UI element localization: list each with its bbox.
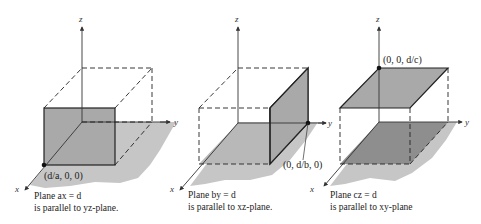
point-marker: [377, 66, 382, 71]
caption-line2: is parallel to yz-plane.: [34, 203, 118, 213]
y-axis-label: y: [464, 117, 469, 127]
point-marker: [42, 163, 47, 168]
caption-line1: Plane ax = d: [34, 191, 82, 201]
point-label: (0, 0, d/c): [383, 54, 422, 66]
plane-ax-face: [44, 108, 115, 165]
caption-line1: Plane by = d: [188, 190, 236, 200]
planes-diagram: z y x (d/a, 0, 0) Plane ax = d is parall…: [0, 0, 481, 224]
caption-line1: Plane cz = d: [330, 190, 377, 200]
caption-line2: is parallel to xy-plane: [330, 202, 413, 212]
x-axis-label: x: [169, 184, 174, 194]
y-axis-label: y: [173, 117, 178, 127]
y-axis-label-prev: y: [327, 118, 332, 128]
z-axis-label: z: [234, 14, 239, 24]
x-axis-label: x: [14, 184, 19, 194]
panel-plane-by: z x (0, d/b, 0) Plane by = d is parallel…: [160, 14, 326, 212]
x-axis-label: x: [309, 184, 314, 194]
panel-plane-cz: z y y x (0, 0, d/c) Plane cz = d is para…: [309, 14, 469, 212]
plane-cz-face: [340, 68, 448, 108]
z-axis-label: z: [375, 14, 380, 24]
point-label: (d/a, 0, 0): [44, 170, 83, 182]
caption-line2: is parallel to xz-plane.: [188, 202, 272, 212]
point-label: (0, d/b, 0): [283, 159, 322, 171]
panel-plane-ax: z y x (d/a, 0, 0) Plane ax = d is parall…: [14, 14, 178, 213]
z-axis-label: z: [78, 14, 83, 24]
